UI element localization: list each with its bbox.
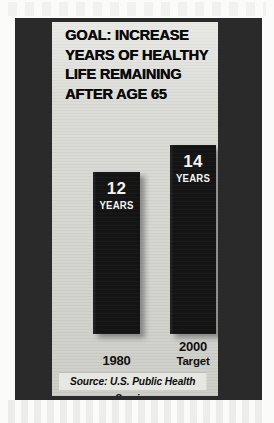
source-note: Source: U.S. Public Health Service [59,372,206,390]
chart-title: GOAL: INCREASE YEARS OF HEALTHY LIFE REM… [65,25,208,103]
bar-unit-2000: YEARS [171,170,215,184]
category-label-2000: 2000 Target [162,340,218,368]
bar-chart-plot-area: 12 YEARS 1980 14 YEARS 2000 Target [52,104,218,396]
infographic-panel: GOAL: INCREASE YEARS OF HEALTHY LIFE REM… [52,22,218,396]
bar-unit-1980: YEARS [94,197,139,211]
category-label-2000-main: 2000 [179,339,207,354]
bar-1980: 12 YEARS [93,172,140,334]
chart-title-line-3: LIFE REMAINING [65,64,208,84]
bar-value-2000: 14 [170,145,216,170]
category-label-1980-main: 1980 [102,353,130,368]
paper-background: GOAL: INCREASE YEARS OF HEALTHY LIFE REM… [0,0,274,423]
bar-2000: 14 YEARS [170,145,216,334]
chart-title-line-4: AFTER AGE 65 [65,84,208,104]
infographic-frame: GOAL: INCREASE YEARS OF HEALTHY LIFE REM… [15,18,262,400]
category-label-1980: 1980 [85,354,148,368]
chart-title-line-2: YEARS OF HEALTHY [65,45,208,65]
category-label-2000-sub: Target [162,354,218,368]
chart-title-line-1: GOAL: INCREASE [65,25,208,45]
bar-value-1980: 12 [93,172,140,197]
